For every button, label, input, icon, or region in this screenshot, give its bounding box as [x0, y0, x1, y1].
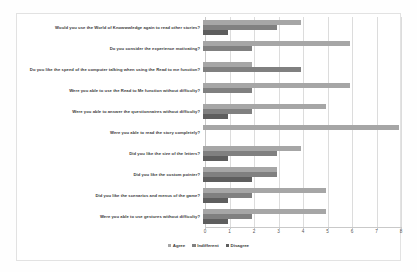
legend-swatch-icon: [192, 244, 195, 247]
category-label: Do you consider the experience motivatin…: [17, 46, 203, 51]
bar-agree: [203, 104, 326, 109]
x-tick-mark: [303, 227, 304, 229]
bar-group: [203, 17, 399, 38]
x-tick-label: 6: [345, 229, 359, 234]
survey-bar-chart: Would you use the World of Knowwwledge a…: [0, 0, 417, 272]
chart-row: Were you able to use the Read to Me func…: [17, 80, 401, 101]
bar-group: [203, 80, 399, 101]
bar-indifferent: [203, 109, 252, 114]
legend-swatch-icon: [168, 244, 171, 247]
bar-group: [203, 101, 399, 122]
bar-agree: [203, 167, 277, 172]
gridline-8: [401, 17, 402, 227]
x-tick-mark: [328, 227, 329, 229]
bar-agree: [203, 41, 350, 46]
x-tick-mark: [279, 227, 280, 229]
chart-rows: Would you use the World of Knowwwledge a…: [17, 17, 401, 227]
legend-item-agree[interactable]: Agree: [168, 243, 185, 248]
bar-agree: [203, 83, 350, 88]
legend-label: Indifferent: [197, 243, 218, 248]
category-label: Did you like the custom pointer?: [17, 172, 203, 177]
chart-row: Did you like the scenarios and menus of …: [17, 185, 401, 206]
bar-group: [203, 206, 399, 227]
bar-indifferent: [203, 88, 252, 93]
chart-row: Would you use the World of Knowwwledge a…: [17, 17, 401, 38]
legend-label: Disagree: [231, 243, 250, 248]
x-tick-mark: [377, 227, 378, 229]
x-axis-tick-labels: 012345678: [205, 229, 401, 239]
bar-indifferent: [203, 46, 252, 51]
bar-indifferent: [203, 172, 277, 177]
bar-disagree: [203, 219, 228, 224]
x-tick-label: 4: [296, 229, 310, 234]
legend-swatch-icon: [226, 244, 229, 247]
chart-legend: AgreeIndifferentDisagree: [0, 243, 417, 248]
chart-row: Did you like the custom pointer?: [17, 164, 401, 185]
bar-agree: [203, 146, 301, 151]
bar-agree: [203, 209, 326, 214]
x-tick-label: 3: [272, 229, 286, 234]
x-tick-label: 8: [394, 229, 408, 234]
legend-label: Agree: [173, 243, 185, 248]
x-tick-label: 1: [223, 229, 237, 234]
bar-agree: [203, 125, 399, 130]
category-label: Do you like the speed of the computer ta…: [17, 67, 203, 72]
category-label: Did you like the scenarios and menus of …: [17, 193, 203, 198]
bar-agree: [203, 62, 252, 67]
bar-indifferent: [203, 67, 301, 72]
chart-row: Do you consider the experience motivatin…: [17, 38, 401, 59]
bar-group: [203, 164, 399, 185]
bar-indifferent: [203, 193, 252, 198]
chart-row: Were you able to answer the questionnair…: [17, 101, 401, 122]
bar-agree: [203, 188, 326, 193]
category-label: Were you able to use the Read to Me func…: [17, 88, 203, 93]
x-tick-label: 7: [370, 229, 384, 234]
bar-indifferent: [203, 151, 277, 156]
x-tick-mark: [230, 227, 231, 229]
bar-group: [203, 185, 399, 206]
bar-disagree: [203, 177, 252, 182]
chart-row: Do you like the speed of the computer ta…: [17, 59, 401, 80]
bar-group: [203, 59, 399, 80]
bar-disagree: [203, 30, 228, 35]
bar-disagree: [203, 198, 228, 203]
bar-group: [203, 143, 399, 164]
x-tick-label: 0: [198, 229, 212, 234]
bar-group: [203, 122, 399, 143]
bar-disagree: [203, 114, 228, 119]
category-label: Were you able to use gestures without di…: [17, 214, 203, 219]
chart-row: Were you able to read the story complete…: [17, 122, 401, 143]
legend-item-indifferent[interactable]: Indifferent: [192, 243, 218, 248]
x-tick-mark: [401, 227, 402, 229]
category-label: Did you like the size of the letters?: [17, 151, 203, 156]
chart-row: Did you like the size of the letters?: [17, 143, 401, 164]
x-tick-mark: [205, 227, 206, 229]
bar-group: [203, 38, 399, 59]
x-tick-mark: [254, 227, 255, 229]
x-tick-mark: [352, 227, 353, 229]
category-label: Were you able to answer the questionnair…: [17, 109, 203, 114]
category-label: Were you able to read the story complete…: [17, 130, 203, 135]
bar-indifferent: [203, 214, 252, 219]
bar-disagree: [203, 156, 228, 161]
x-tick-label: 2: [247, 229, 261, 234]
bar-indifferent: [203, 25, 277, 30]
legend-item-disagree[interactable]: Disagree: [226, 243, 249, 248]
x-tick-label: 5: [321, 229, 335, 234]
chart-row: Were you able to use gestures without di…: [17, 206, 401, 227]
bar-agree: [203, 20, 301, 25]
category-label: Would you use the World of Knowwwledge a…: [17, 25, 203, 30]
